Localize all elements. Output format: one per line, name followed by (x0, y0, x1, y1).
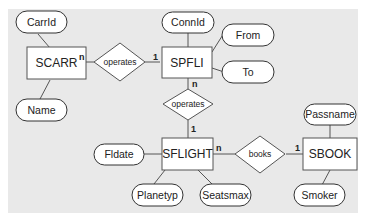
attribute-smoker-label: Smoker (301, 189, 338, 201)
entity-scarr-label: SCARR (35, 56, 77, 70)
attribute-smoker[interactable]: Smoker (294, 184, 345, 206)
entity-sbook-label: SBOOK (309, 147, 352, 161)
cardinality-1: 1 (295, 143, 300, 153)
entity-sflight-label: SFLIGHT (162, 147, 213, 161)
relationship-operates-spfli-sflight[interactable]: operates (163, 89, 213, 120)
attribute-connid-label: ConnId (171, 16, 205, 28)
relationship-label: operates (171, 99, 204, 109)
relationship-label: books (249, 149, 272, 159)
attribute-name-label: Name (27, 104, 55, 116)
cardinality-1: 1 (191, 124, 196, 134)
attribute-to-label: To (242, 66, 253, 78)
cardinality-n: n (216, 143, 222, 153)
attribute-connid[interactable]: ConnId (162, 12, 214, 33)
relationship-operates-scarr-spfli[interactable]: operates (94, 43, 145, 81)
attribute-fldate-label: Fldate (104, 148, 133, 160)
cardinality-n: n (192, 79, 198, 89)
entity-spfli-label: SPFLI (170, 56, 203, 70)
er-diagram: SCARR CarrId Name operates n 1 SPFLI Con… (0, 0, 367, 222)
attribute-fldate[interactable]: Fldate (94, 144, 144, 165)
cardinality-n: n (79, 52, 85, 62)
relationship-label: operates (103, 57, 136, 67)
attribute-seatsmax[interactable]: Seatsmax (200, 184, 251, 206)
entity-spfli[interactable]: SPFLI (162, 47, 212, 78)
attribute-passname-label: Passname (305, 108, 355, 120)
attribute-passname[interactable]: Passname (304, 104, 356, 125)
attribute-to[interactable]: To (222, 61, 274, 83)
attribute-from-label: From (236, 29, 261, 41)
relationship-books[interactable]: books (235, 136, 285, 173)
attribute-from[interactable]: From (222, 24, 274, 46)
entity-scarr[interactable]: SCARR (27, 47, 86, 79)
attribute-planetyp-label: Planetyp (137, 189, 178, 201)
attribute-seatsmax-label: Seatsmax (202, 189, 249, 201)
attribute-carrid-label: CarrId (27, 16, 56, 28)
cardinality-1: 1 (153, 52, 158, 62)
entity-sflight[interactable]: SFLIGHT (162, 138, 214, 170)
attribute-planetyp[interactable]: Planetyp (132, 184, 183, 206)
attribute-carrid[interactable]: CarrId (16, 11, 67, 33)
attribute-name[interactable]: Name (16, 99, 67, 121)
entity-sbook[interactable]: SBOOK (303, 138, 357, 170)
